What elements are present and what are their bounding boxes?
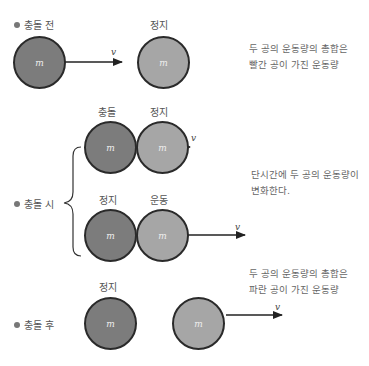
velocity-label: v <box>191 133 196 143</box>
bullet-icon <box>14 201 20 207</box>
state-label: 정지 <box>99 279 117 294</box>
velocity-label: v <box>235 222 240 232</box>
ball-red-during-2: m <box>84 209 137 262</box>
state-label: 정지 <box>150 104 168 119</box>
ball-red-before: m <box>13 36 66 89</box>
description-after: 두 공의 운동량의 총합은 파란 공이 가진 운동량 <box>249 266 348 298</box>
ball-blue-before: m <box>137 36 190 89</box>
bullet-icon <box>14 22 20 28</box>
velocity-label: v <box>275 302 280 312</box>
state-label: 충돌 <box>98 104 116 119</box>
ball-blue-during-2: m <box>136 209 189 262</box>
description-during: 단시간에 두 공의 운동량이 변화한다. <box>251 167 359 199</box>
brace <box>64 147 81 256</box>
description-before: 두 공의 운동량의 총합은 빨간 공이 가진 운동량 <box>249 41 348 73</box>
ball-red-after: m <box>84 297 137 350</box>
ball-blue-during-1: m <box>136 121 189 174</box>
section-before-label: 충돌 전 <box>14 17 54 32</box>
ball-red-during-1: m <box>84 121 137 174</box>
state-label: 정지 <box>99 192 117 207</box>
bullet-icon <box>14 322 20 328</box>
ball-blue-after: m <box>172 297 225 350</box>
state-label: 정지 <box>150 17 168 32</box>
section-after-label: 충돌 후 <box>14 317 54 332</box>
section-during-label: 충돌 시 <box>14 196 54 211</box>
velocity-label: v <box>111 47 116 57</box>
state-label: 운동 <box>150 192 168 207</box>
